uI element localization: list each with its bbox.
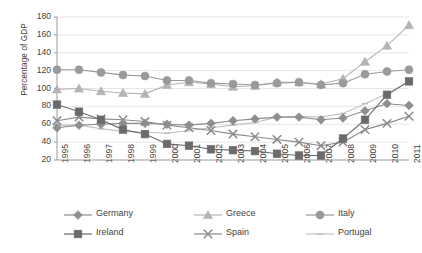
data-point-marker: [185, 142, 193, 150]
legend-item-greece[interactable]: Greece: [193, 206, 256, 220]
legend-label: Ireland: [96, 227, 124, 237]
data-point-marker: [53, 66, 61, 74]
data-point-marker: [405, 101, 414, 110]
legend-marker-diamond-icon: [63, 207, 93, 219]
data-point-marker: [74, 230, 82, 238]
data-point-marker: [185, 76, 193, 84]
data-point-marker: [141, 130, 149, 138]
data-point-marker: [383, 91, 391, 99]
legend-item-ireland[interactable]: Ireland: [63, 225, 124, 239]
data-point-marker: [361, 116, 369, 124]
data-point-marker: [163, 140, 171, 148]
legend-marker-square-icon: [63, 226, 93, 238]
data-point-marker: [97, 116, 105, 124]
data-point-marker: [207, 145, 215, 153]
data-point-marker: [361, 106, 370, 115]
legend-marker-triangle-icon: [193, 207, 223, 219]
data-point-marker: [251, 147, 259, 155]
data-point-marker: [339, 79, 347, 87]
legend-label: Spain: [226, 227, 249, 237]
data-point-marker: [141, 119, 150, 128]
legend-label: Portugal: [338, 227, 372, 237]
legend-label: Greece: [226, 208, 256, 218]
legend-item-germany[interactable]: Germany: [63, 206, 133, 220]
data-point-marker: [383, 68, 391, 76]
data-point-marker: [317, 81, 325, 89]
data-point-marker: [339, 114, 348, 123]
data-point-marker: [119, 126, 127, 134]
data-point-marker: [75, 66, 83, 74]
legend-label: Italy: [338, 208, 355, 218]
chart-legend: GermanyGreeceItalyIrelandSpainPortugal: [63, 206, 383, 250]
legend-item-italy[interactable]: Italy: [305, 206, 355, 220]
data-point-marker: [405, 66, 413, 74]
data-point-marker: [207, 79, 215, 87]
data-point-marker: [404, 21, 413, 29]
legend-marker-dash-icon: [305, 226, 335, 238]
data-point-marker: [295, 113, 304, 122]
data-point-marker: [295, 152, 303, 160]
data-point-marker: [295, 78, 303, 86]
legend-label: Germany: [96, 208, 133, 218]
data-point-marker: [163, 76, 171, 84]
data-point-marker: [360, 57, 369, 65]
data-point-marker: [273, 79, 281, 87]
data-point-marker: [229, 80, 237, 88]
data-point-marker: [229, 146, 237, 154]
data-point-marker: [75, 108, 83, 116]
data-point-marker: [273, 150, 281, 158]
data-point-marker: [119, 71, 127, 79]
data-point-marker: [74, 211, 83, 220]
data-point-marker: [97, 68, 105, 76]
series-germany: [53, 99, 414, 132]
data-point-marker: [405, 78, 413, 86]
data-point-marker: [251, 81, 259, 89]
legend-item-spain[interactable]: Spain: [193, 225, 249, 239]
data-point-marker: [361, 70, 369, 78]
series-italy: [53, 66, 413, 89]
legend-item-portugal[interactable]: Portugal: [305, 225, 372, 239]
data-point-marker: [317, 152, 325, 160]
data-point-marker: [75, 121, 84, 130]
data-point-marker: [316, 211, 324, 219]
data-point-marker: [361, 125, 369, 133]
data-point-marker: [405, 112, 413, 120]
legend-marker-circle-icon: [305, 207, 335, 219]
data-point-marker: [53, 101, 61, 109]
data-point-marker: [339, 135, 347, 143]
data-point-marker: [383, 119, 391, 127]
data-point-marker: [273, 113, 282, 122]
legend-marker-x-icon: [193, 226, 223, 238]
data-point-marker: [141, 72, 149, 80]
